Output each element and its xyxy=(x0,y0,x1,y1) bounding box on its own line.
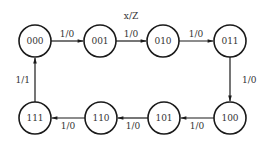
state-110: 110 xyxy=(85,102,117,134)
state-label: 110 xyxy=(92,113,109,123)
edge-label-100-101: 1/0 xyxy=(190,121,205,131)
edges xyxy=(35,41,230,118)
state-label: 001 xyxy=(91,36,108,46)
state-001: 001 xyxy=(84,25,116,57)
legend-label: x/Z xyxy=(124,11,138,21)
state-010: 010 xyxy=(147,25,179,57)
state-label: 101 xyxy=(155,113,172,123)
state-diagram: x/Z 1/0 1/0 1/0 1/0 1/0 1/0 1/0 1/1 000 … xyxy=(0,0,263,153)
state-100: 100 xyxy=(214,102,246,134)
edge-label-011-100: 1/0 xyxy=(242,75,257,85)
state-label: 011 xyxy=(221,36,238,46)
state-label: 111 xyxy=(26,113,43,123)
edge-label-010-011: 1/0 xyxy=(189,29,204,39)
state-101: 101 xyxy=(148,102,180,134)
edge-label-101-110: 1/0 xyxy=(126,121,141,131)
edge-label-000-001: 1/0 xyxy=(60,29,75,39)
edge-label-111-000: 1/1 xyxy=(16,75,30,85)
state-000: 000 xyxy=(19,25,51,57)
edge-label-110-111: 1/0 xyxy=(61,121,76,131)
edge-label-001-010: 1/0 xyxy=(124,29,139,39)
state-111: 111 xyxy=(19,102,51,134)
state-011: 011 xyxy=(214,25,246,57)
state-label: 010 xyxy=(154,36,171,46)
state-label: 000 xyxy=(26,36,43,46)
state-label: 100 xyxy=(221,113,238,123)
